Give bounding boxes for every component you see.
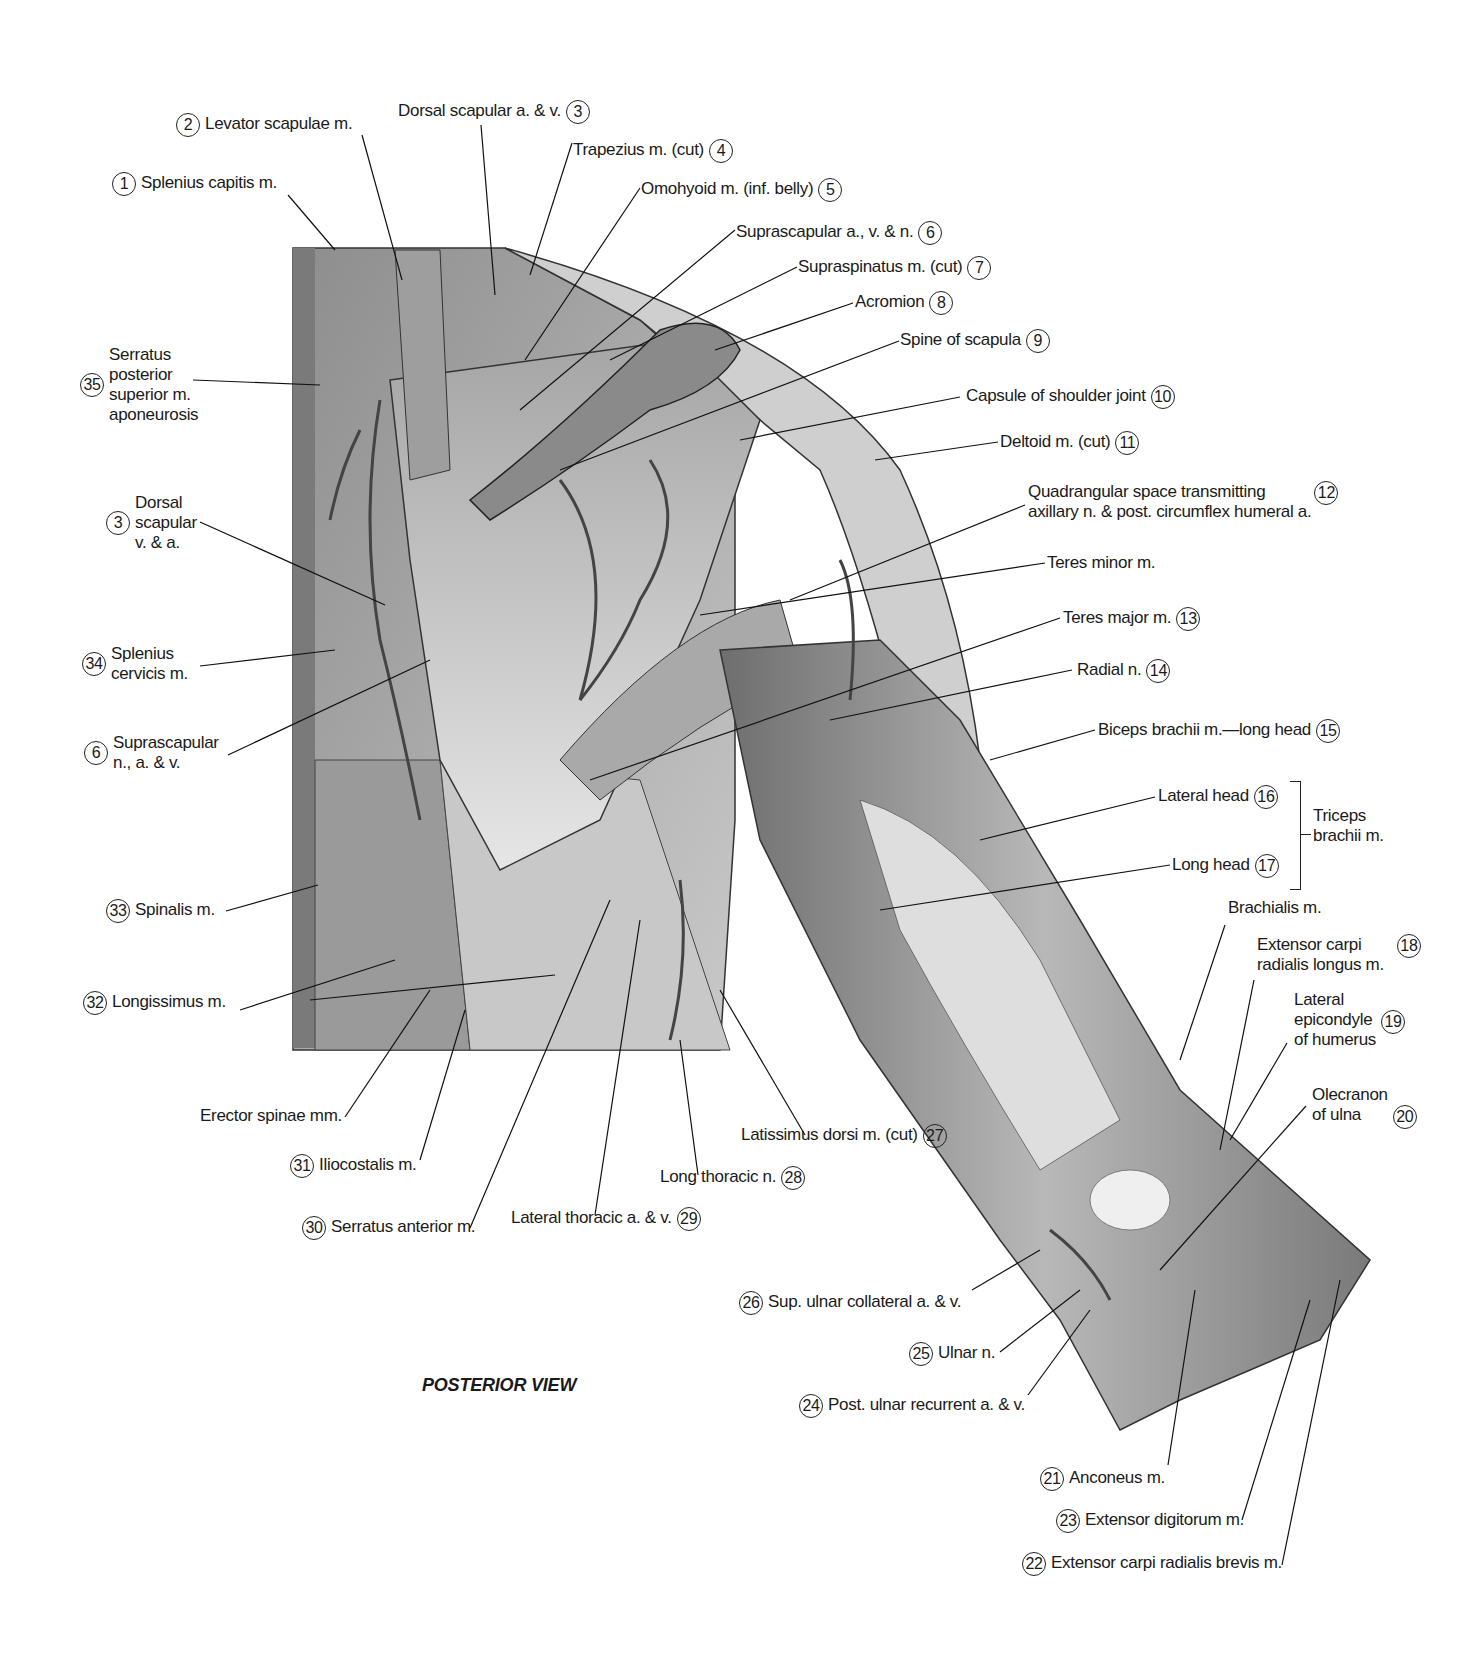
label-3-dorsal-scapular: 3Dorsal scapular a. & v. [398,101,590,124]
callout-number: 17 [1255,854,1279,878]
callout-number: 10 [1151,385,1175,409]
callout-number: 5 [818,178,842,202]
label-5-omohyoid: 5Omohyoid m. (inf. belly) [641,179,842,202]
callout-number: 27 [923,1124,947,1148]
label-22-ecrb: 22Extensor carpi radialis brevis m. [1022,1553,1282,1576]
label-31-iliocostalis: 31Iliocostalis m. [290,1155,417,1178]
callout-number: 33 [106,899,130,923]
callout-number: 19 [1381,1010,1405,1034]
callout-number: 4 [709,139,733,163]
triceps-bracket [1290,781,1301,890]
label-7-supraspinatus: 7Supraspinatus m. (cut) [798,257,991,280]
label-15-biceps-long-head: 15Biceps brachii m.—long head [1098,720,1340,743]
callout-number: 20 [1393,1105,1417,1129]
callout-number: 1 [112,172,136,196]
callout-number: 9 [1026,329,1050,353]
label-triceps-brachii: Triceps brachii m. [1313,806,1384,846]
label-30-serratus-anterior: 30Serratus anterior m. [302,1217,475,1240]
label-6-suprascapular-left: 6Suprascapular n., a. & v. [84,733,219,773]
callout-number: 31 [290,1154,314,1178]
callout-number: 25 [909,1342,933,1366]
label-18-ecrl: Extensor carpi radialis longus m.18 [1257,935,1421,975]
callout-number: 3 [106,511,130,535]
callout-number: 7 [967,256,991,280]
label-23-extensor-digitorum: 23Extensor digitorum m. [1056,1510,1244,1533]
label-20-olecranon: Olecranon of ulna20 [1312,1085,1417,1129]
callout-number: 6 [918,221,942,245]
label-16-lateral-head: 16Lateral head [1158,786,1278,809]
label-29-lateral-thoracic: 29Lateral thoracic a. & v. [511,1208,701,1231]
label-1-splenius-capitis: 1Splenius capitis m. [112,173,277,196]
label-9-spine-of-scapula: 9Spine of scapula [900,330,1050,353]
callout-number: 11 [1115,431,1139,455]
label-25-ulnar-n: 25Ulnar n. [909,1343,995,1366]
label-19-lateral-epicondyle: Lateral epicondyle of humerus19 [1294,990,1405,1050]
callout-number: 30 [302,1216,326,1240]
label-10-capsule: 10Capsule of shoulder joint [966,386,1175,409]
label-11-deltoid: 11Deltoid m. (cut) [1000,432,1139,455]
label-24-post-ulnar-recurrent: 24Post. ulnar recurrent a. & v. [799,1395,1025,1418]
label-teres-minor: Teres minor m. [1047,553,1155,573]
label-14-radial-n: 14Radial n. [1077,660,1170,683]
callout-number: 15 [1316,719,1340,743]
label-33-spinalis: 33Spinalis m. [106,900,215,923]
callout-number: 22 [1022,1552,1046,1576]
triceps-bracket-tick [1301,834,1311,835]
view-title: POSTERIOR VIEW [422,1375,576,1396]
label-6-suprascapular: 6Suprascapular a., v. & n. [736,222,942,245]
callout-number: 24 [799,1394,823,1418]
callout-number: 8 [929,291,953,315]
callout-number: 29 [677,1207,701,1231]
label-erector-spinae: Erector spinae mm. [200,1106,342,1126]
callout-number: 35 [80,373,104,397]
olecranon [1090,1170,1170,1230]
callout-number: 28 [781,1166,805,1190]
callout-number: 2 [176,113,200,137]
anatomy-illustration [0,0,1463,1666]
label-8-acromion: 8Acromion [855,292,953,315]
label-13-teres-major: 13Teres major m. [1063,608,1200,631]
callout-number: 12 [1314,481,1338,505]
label-brachialis: Brachialis m. [1228,898,1321,918]
vertebral-column-strip [293,248,315,1048]
callout-number: 16 [1254,785,1278,809]
callout-number: 26 [739,1291,763,1315]
callout-number: 3 [566,100,590,124]
label-28-long-thoracic: 28Long thoracic n. [660,1167,805,1190]
callout-number: 23 [1056,1509,1080,1533]
label-2-levator-scapulae: 2Levator scapulae m. [176,114,352,137]
label-21-anconeus: 21Anconeus m. [1040,1468,1165,1491]
callout-number: 6 [84,741,108,765]
callout-number: 18 [1397,934,1421,958]
label-3-dorsal-scapular-left: 3Dorsal scapular v. & a. [106,493,197,553]
label-17-long-head: 17Long head [1172,855,1279,878]
label-26-sup-ulnar-collateral: 26Sup. ulnar collateral a. & v. [739,1292,961,1315]
callout-number: 21 [1040,1467,1064,1491]
label-32-longissimus: 32Longissimus m. [83,992,226,1015]
callout-number: 34 [82,652,106,676]
label-34-splenius-cervicis: 34Splenius cervicis m. [82,644,188,684]
label-12-quadrangular-space: 12Quadrangular space transmitting axilla… [1028,482,1338,522]
callout-number: 13 [1176,607,1200,631]
label-35-serratus-posterior-superior: 35Serratus posterior superior m. aponeur… [80,345,198,425]
callout-number: 14 [1146,659,1170,683]
label-4-trapezius: 4Trapezius m. (cut) [573,140,733,163]
label-27-latissimus-dorsi: 27Latissimus dorsi m. (cut) [741,1125,947,1148]
callout-number: 32 [83,991,107,1015]
